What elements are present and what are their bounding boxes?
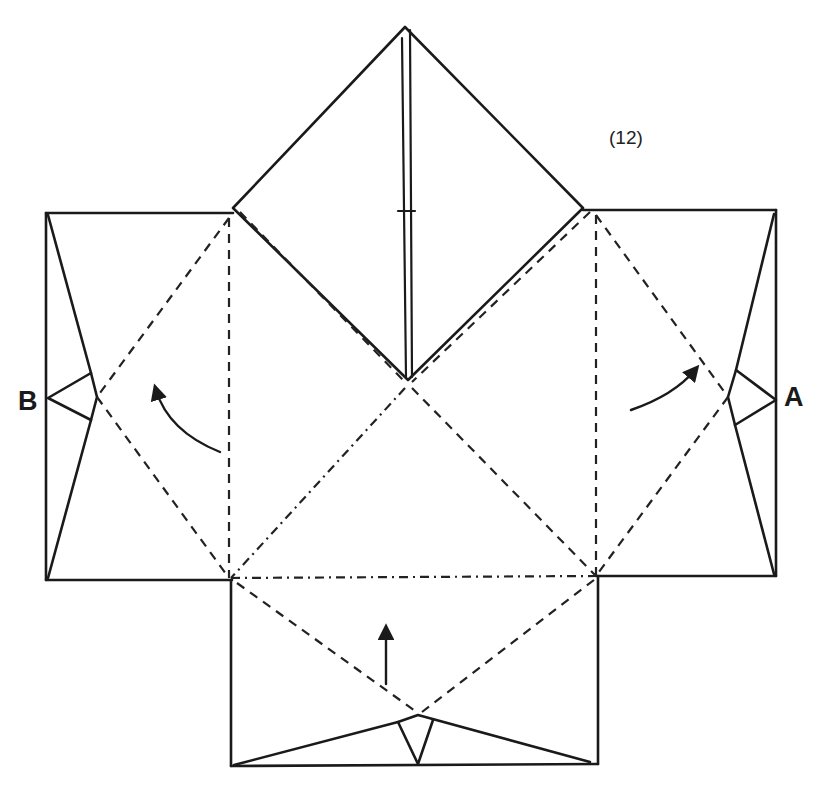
right-wing (583, 210, 776, 576)
point-label-a: A (784, 382, 804, 413)
fold-arrow-left (156, 390, 220, 452)
bottom-flap (231, 576, 598, 766)
fold-arrow-right (631, 370, 695, 410)
step-number: (12) (609, 127, 643, 149)
point-label-b: B (18, 386, 38, 417)
origami-diagram (0, 0, 824, 785)
fold-arrows (156, 370, 695, 684)
left-wing (46, 213, 233, 580)
top-diamond-flap (233, 27, 583, 380)
